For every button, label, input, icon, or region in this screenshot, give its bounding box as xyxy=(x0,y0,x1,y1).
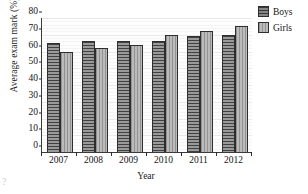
bar-boys-2008 xyxy=(82,41,95,152)
legend-item-girls[interactable]: Girls xyxy=(258,22,293,33)
x-tick-mark xyxy=(251,152,252,156)
corner-artifact: ? xyxy=(2,176,6,187)
x-tick-label: 2011 xyxy=(182,155,216,165)
x-tick-label: 2010 xyxy=(147,155,181,165)
y-tick-label: 20 xyxy=(16,108,38,118)
y-tick-label: 10 xyxy=(16,125,38,135)
bar-group xyxy=(82,18,108,152)
y-tick-mark xyxy=(39,12,42,13)
bar-boys-2012 xyxy=(222,35,235,152)
bar-girls-2007 xyxy=(60,52,73,153)
x-tick-label: 2007 xyxy=(42,155,76,165)
bar-boys-2011 xyxy=(187,36,200,152)
bar-group xyxy=(47,18,73,152)
y-axis-tick-labels: 01020304050607080 xyxy=(16,12,38,152)
bar-girls-2009 xyxy=(130,45,143,152)
y-tick-label: 60 xyxy=(16,41,38,51)
y-tick-label: 40 xyxy=(16,74,38,84)
bar-chart: Average exam mark (%) 01020304050607080 … xyxy=(0,0,308,194)
plot-area xyxy=(41,18,252,153)
bar-girls-2012 xyxy=(235,26,248,152)
x-axis-title: Year xyxy=(41,171,251,181)
legend-label: Girls xyxy=(273,23,292,33)
x-tick-label: 2008 xyxy=(77,155,111,165)
x-tick-label: 2009 xyxy=(112,155,146,165)
y-tick-label: 30 xyxy=(16,91,38,101)
y-tick-label: 0 xyxy=(16,141,38,151)
x-axis-tick-labels: 200720082009201020112012 xyxy=(41,155,251,165)
y-tick-label: 70 xyxy=(16,24,38,34)
bar-girls-2010 xyxy=(165,35,178,152)
y-tick-label: 80 xyxy=(16,7,38,17)
x-tick-label: 2012 xyxy=(217,155,251,165)
bar-group xyxy=(222,18,248,152)
girls-swatch xyxy=(258,22,269,33)
bar-boys-2007 xyxy=(47,43,60,152)
y-tick-label: 50 xyxy=(16,58,38,68)
boys-swatch xyxy=(258,6,269,17)
bar-group xyxy=(187,18,213,152)
bar-boys-2010 xyxy=(152,41,165,152)
legend: BoysGirls xyxy=(258,6,293,33)
bar-group xyxy=(152,18,178,152)
bar-boys-2009 xyxy=(117,41,130,152)
bar-girls-2011 xyxy=(200,31,213,152)
legend-item-boys[interactable]: Boys xyxy=(258,6,293,17)
legend-label: Boys xyxy=(273,7,293,17)
bar-groups xyxy=(42,18,252,152)
bar-group xyxy=(117,18,143,152)
bar-girls-2008 xyxy=(95,48,108,152)
